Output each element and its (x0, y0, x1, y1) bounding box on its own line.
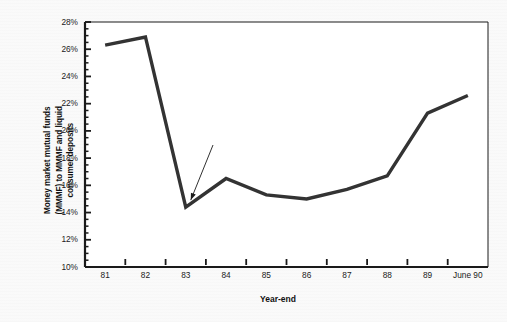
plot-background (85, 22, 488, 267)
chart-plot-area (0, 0, 507, 322)
figure-container: Money market mutual funds (MMMF) to MMMF… (0, 0, 507, 322)
y-axis-minor-ticks (85, 29, 89, 260)
